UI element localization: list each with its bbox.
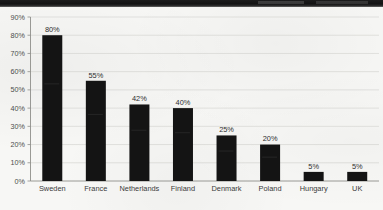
y-axis-tick-label: 80% xyxy=(11,31,26,40)
bar-scan-streak xyxy=(219,150,234,151)
bar-scan-streak xyxy=(175,132,190,133)
bar xyxy=(129,104,149,181)
bar xyxy=(42,35,62,181)
bar xyxy=(86,81,106,181)
y-axis-tick-label: 50% xyxy=(11,85,26,94)
x-axis-category-label: Denmark xyxy=(212,184,242,193)
bar-value-label: 5% xyxy=(308,162,319,171)
x-axis-category-label: Hungary xyxy=(300,184,328,193)
bar-value-label: 40% xyxy=(176,98,191,107)
x-axis-category-label: Netherlands xyxy=(119,184,159,193)
chart-page: 90%80%70%60%50%40%30%20%10%0% 80%55%42%4… xyxy=(0,0,383,210)
y-axis-tick-label: 10% xyxy=(11,158,26,167)
y-axis-tick-label: 40% xyxy=(11,104,26,113)
y-axis-tick-label: 60% xyxy=(11,67,26,76)
bar xyxy=(304,172,324,181)
bar-value-label: 55% xyxy=(88,71,103,80)
bar-value-label: 42% xyxy=(132,94,147,103)
bar-value-label: 25% xyxy=(219,125,234,134)
bar-scan-streak xyxy=(262,157,277,158)
bar xyxy=(217,135,237,181)
bar-value-label: 5% xyxy=(352,162,363,171)
bar xyxy=(260,145,280,181)
bar-chart: 90%80%70%60%50%40%30%20%10%0% 80%55%42%4… xyxy=(0,0,383,210)
bar xyxy=(347,172,367,181)
x-axis-category-label: Poland xyxy=(259,184,282,193)
bar xyxy=(173,108,193,181)
bar-value-label: 80% xyxy=(45,25,60,34)
y-axis-tick-label: 70% xyxy=(11,49,26,58)
gridlines xyxy=(31,17,380,163)
y-axis-tick-label: 20% xyxy=(11,140,26,149)
x-axis-category-label: Sweden xyxy=(39,184,66,193)
x-axis-category-label: France xyxy=(84,184,107,193)
x-axis-category-labels: SwedenFranceNetherlandsFinlandDenmarkPol… xyxy=(39,184,362,193)
y-axis-tick-label: 0% xyxy=(15,177,26,186)
bar-value-label: 20% xyxy=(263,134,278,143)
x-axis-category-label: Finland xyxy=(171,184,195,193)
y-axis-tick-label: 90% xyxy=(11,13,26,22)
bar-scan-streak xyxy=(44,83,59,84)
bar-scan-streak xyxy=(131,130,146,131)
y-axis-tick-label: 30% xyxy=(11,122,26,131)
y-axis-tick-labels: 90%80%70%60%50%40%30%20%10%0% xyxy=(11,13,26,186)
x-axis-category-label: UK xyxy=(352,184,362,193)
bar-scan-streak xyxy=(88,114,103,115)
